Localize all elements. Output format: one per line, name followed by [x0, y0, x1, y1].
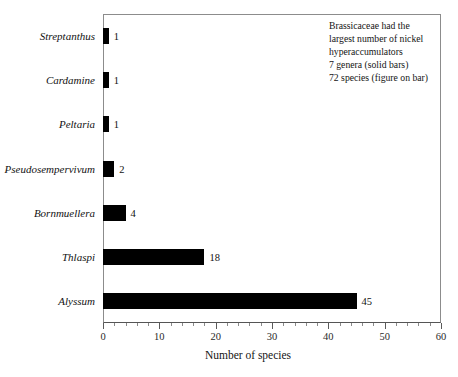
bar — [103, 116, 109, 132]
bar-value-label: 4 — [131, 207, 136, 218]
x-axis-tick-label: 20 — [210, 331, 221, 342]
annotation-line: Brassicaceae had the — [329, 19, 441, 32]
x-axis-minor-tick — [238, 323, 239, 326]
x-axis-minor-tick — [396, 323, 397, 326]
annotation-line: 7 genera (solid bars) — [329, 58, 441, 71]
x-axis-major-tick — [159, 323, 160, 329]
x-axis-minor-tick — [126, 323, 127, 326]
bar-row: 4 — [103, 195, 441, 231]
x-axis-minor-tick — [351, 323, 352, 326]
bar-chart: StreptanthusCardaminePeltariaPseudosempe… — [0, 0, 458, 377]
x-axis-minor-tick — [193, 323, 194, 326]
x-axis-minor-tick — [249, 323, 250, 326]
x-axis-title: Number of species — [0, 349, 458, 361]
x-axis-title-text: Number of species — [205, 349, 291, 361]
x-axis-minor-tick — [137, 323, 138, 326]
x-axis-minor-tick — [407, 323, 408, 326]
x-axis-minor-tick — [373, 323, 374, 326]
category-label: Cardamine — [46, 62, 95, 98]
category-axis-labels: StreptanthusCardaminePeltariaPseudosempe… — [0, 14, 99, 323]
bar-value-label: 1 — [114, 31, 119, 42]
x-axis-tick-label: 60 — [436, 331, 447, 342]
x-axis-minor-tick — [340, 323, 341, 326]
x-axis-major-tick — [385, 323, 386, 329]
bar — [103, 293, 357, 309]
bar — [103, 205, 126, 221]
x-axis-major-tick — [216, 323, 217, 329]
x-axis-minor-tick — [317, 323, 318, 326]
x-axis-minor-tick — [204, 323, 205, 326]
annotation-line: hyperaccumulators — [329, 45, 441, 58]
x-axis-major-tick — [103, 323, 104, 329]
x-axis-major-tick — [272, 323, 273, 329]
bar — [103, 72, 109, 88]
bar-value-label: 1 — [114, 119, 119, 130]
bar-value-label: 1 — [114, 75, 119, 86]
x-axis-minor-tick — [182, 323, 183, 326]
bar-value-label: 45 — [362, 295, 373, 306]
annotation-line: 72 species (figure on bar) — [329, 71, 441, 84]
x-axis-tick-label: 30 — [267, 331, 278, 342]
x-axis-minor-tick — [261, 323, 262, 326]
category-label: Bornmuellera — [34, 195, 95, 231]
bar — [103, 161, 114, 177]
x-axis-minor-tick — [430, 323, 431, 326]
bar-row: 18 — [103, 239, 441, 275]
category-label: Thlaspi — [62, 239, 95, 275]
x-axis-tick-label: 0 — [100, 331, 105, 342]
x-axis-minor-tick — [418, 323, 419, 326]
x-axis-minor-tick — [114, 323, 115, 326]
x-axis-minor-tick — [148, 323, 149, 326]
bar-row: 2 — [103, 151, 441, 187]
x-axis-tick-label: 50 — [379, 331, 390, 342]
category-label: Pseudosempervivum — [5, 151, 95, 187]
bar — [103, 28, 109, 44]
x-axis-minor-tick — [362, 323, 363, 326]
bar-value-label: 18 — [209, 251, 220, 262]
x-axis-minor-tick — [227, 323, 228, 326]
annotation-line: largest number of nickel — [329, 32, 441, 45]
x-axis-minor-tick — [295, 323, 296, 326]
annotation-note: Brassicaceae had thelargest number of ni… — [329, 19, 441, 84]
bar-row: 1 — [103, 106, 441, 142]
x-axis-major-tick — [441, 323, 442, 329]
x-axis-major-tick — [328, 323, 329, 329]
x-axis-minor-tick — [306, 323, 307, 326]
bar — [103, 249, 204, 265]
category-label: Peltaria — [59, 106, 95, 142]
category-label: Alyssum — [58, 283, 95, 319]
bar-value-label: 2 — [119, 163, 124, 174]
x-axis-tick-label: 40 — [323, 331, 334, 342]
x-axis-minor-tick — [283, 323, 284, 326]
category-label: Streptanthus — [40, 18, 95, 54]
bar-row: 45 — [103, 283, 441, 319]
x-axis-tick-label: 10 — [154, 331, 165, 342]
x-axis-minor-tick — [171, 323, 172, 326]
